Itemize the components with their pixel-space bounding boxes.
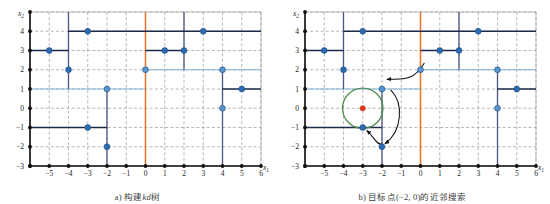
y-axis-node	[28, 145, 32, 149]
y-tick-label: 1	[20, 85, 24, 94]
data-point-p-1-3[interactable]	[162, 48, 168, 54]
data-point-p-4-2[interactable]	[220, 67, 226, 73]
data-point-p-5-1[interactable]	[239, 86, 245, 92]
data-point-p-0-2[interactable]	[418, 67, 424, 73]
y-tick-label: −3	[291, 162, 299, 171]
data-point-p-0-2[interactable]	[143, 67, 149, 73]
data-point-p-m5-3[interactable]	[321, 48, 327, 54]
y-tick-label: 3	[295, 46, 299, 55]
data-point-p-m2-1[interactable]	[104, 86, 110, 92]
y-tick-label: 3	[20, 46, 24, 55]
data-point-p-1-3[interactable]	[437, 48, 443, 54]
x-tick-label: −1	[397, 169, 405, 178]
x-axis-node	[28, 164, 32, 168]
caption-a-em: kd	[143, 192, 151, 202]
y-tick-label: 1	[295, 85, 299, 94]
x-tick-label: 3	[201, 169, 205, 178]
x-tick-label: −5	[45, 169, 53, 178]
x-tick-label: 1	[163, 169, 167, 178]
x-axis-node	[476, 164, 480, 168]
x-axis-node	[201, 164, 205, 168]
x-tick-label: −4	[340, 169, 348, 178]
x-axis-node	[163, 164, 167, 168]
data-point-p-4-0[interactable]	[495, 105, 501, 111]
data-point-p-4-0[interactable]	[220, 105, 226, 111]
x-axis-node	[322, 164, 326, 168]
y-tick-label: 4	[295, 27, 299, 36]
panel-nearest-neighbour-search: −5−4−3−2−1012345643210−1−2−3x1x2 b) 目标点(…	[275, 0, 550, 204]
data-point-p-m2-m2[interactable]	[379, 144, 385, 150]
plot-a: −5−4−3−2−1012345643210−1−2−3x1x2	[0, 0, 275, 204]
data-point-p-5-1[interactable]	[514, 86, 520, 92]
x-axis-node	[105, 164, 109, 168]
y-axis-node	[303, 106, 307, 110]
y-axis-node	[303, 87, 307, 91]
x-axis-node	[221, 164, 225, 168]
x-tick-label: −3	[359, 169, 367, 178]
target-point[interactable]	[360, 106, 365, 111]
data-point-p-m4-2[interactable]	[66, 67, 72, 73]
x-tick-label: −3	[84, 169, 92, 178]
data-point-p-4-2[interactable]	[495, 67, 501, 73]
x-axis-node	[380, 164, 384, 168]
data-point-p-m2-m2[interactable]	[104, 144, 110, 150]
x-axis-node	[124, 164, 128, 168]
y-axis-label: x2	[17, 9, 24, 19]
x-axis-node	[303, 164, 307, 168]
x-tick-label: 4	[496, 169, 500, 178]
y-axis-node	[303, 68, 307, 72]
x-axis-node	[240, 164, 244, 168]
y-axis-node	[303, 126, 307, 130]
x-tick-label: 1	[438, 169, 442, 178]
y-axis-node	[28, 106, 32, 110]
x-axis-node	[438, 164, 442, 168]
y-tick-label: 2	[295, 65, 299, 74]
y-axis-node	[28, 10, 32, 14]
x-axis-node	[399, 164, 403, 168]
x-tick-label: −2	[103, 169, 111, 178]
y-tick-label: −1	[291, 123, 299, 132]
caption-a-post: 树	[151, 192, 160, 202]
plot-b: −5−4−3−2−1012345643210−1−2−3x1x2	[275, 0, 550, 204]
caption-b-pre: b) 目标点(−2, 0)的近邻搜索	[358, 192, 466, 202]
data-point-p-m4-2[interactable]	[341, 67, 347, 73]
x-tick-label: 2	[457, 169, 461, 178]
y-axis-node	[28, 29, 32, 33]
y-axis-node	[28, 126, 32, 130]
data-point-p-m5-3[interactable]	[46, 48, 52, 54]
data-point-p-2-3[interactable]	[181, 48, 187, 54]
y-axis-node	[28, 49, 32, 53]
x-tick-label: −2	[378, 169, 386, 178]
x-tick-label: −1	[122, 169, 130, 178]
data-point-p-m3-4[interactable]	[85, 28, 91, 34]
data-point-p-3-4[interactable]	[200, 28, 206, 34]
data-point-p-m3-m1[interactable]	[85, 125, 91, 131]
caption-a-pre: a) 构建	[115, 192, 143, 202]
y-axis-node	[28, 87, 32, 91]
caption-a: a) 构建kd树	[0, 190, 275, 202]
y-axis-node	[303, 49, 307, 53]
y-tick-label: −2	[291, 142, 299, 151]
x-axis-node	[419, 164, 423, 168]
data-point-p-m3-4[interactable]	[360, 28, 366, 34]
x-tick-label: 5	[240, 169, 244, 178]
x-tick-label: 0	[419, 169, 423, 178]
y-tick-label: −2	[16, 142, 24, 151]
y-axis-label: x2	[292, 9, 299, 19]
y-tick-label: 2	[20, 65, 24, 74]
data-point-p-m3-m1[interactable]	[360, 125, 366, 131]
y-axis-node	[303, 29, 307, 33]
x-axis-label: x1	[262, 163, 269, 173]
y-tick-label: −3	[16, 162, 24, 171]
x-tick-label: 4	[221, 169, 225, 178]
x-axis-node	[342, 164, 346, 168]
y-axis-node	[303, 145, 307, 149]
x-tick-label: 0	[144, 169, 148, 178]
x-axis-node	[182, 164, 186, 168]
data-point-p-3-4[interactable]	[475, 28, 481, 34]
data-point-p-2-3[interactable]	[456, 48, 462, 54]
x-tick-label: −4	[65, 169, 73, 178]
y-axis-node	[28, 68, 32, 72]
data-point-p-m2-1[interactable]	[379, 86, 385, 92]
x-axis-node	[361, 164, 365, 168]
